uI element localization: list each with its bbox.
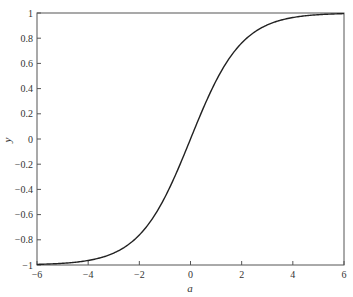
x-tick-label: −6 bbox=[32, 269, 43, 280]
x-axis-ticks: −6−4−20246 bbox=[32, 261, 347, 280]
y-tick-label: 0.4 bbox=[21, 83, 34, 94]
y-tick-label: 0 bbox=[28, 134, 33, 145]
x-tick-label: 4 bbox=[290, 269, 295, 280]
x-tick-label: 6 bbox=[342, 269, 347, 280]
x-axis-label: a bbox=[187, 282, 193, 294]
x-tick-label: 2 bbox=[239, 269, 244, 280]
y-tick-label: −0.2 bbox=[15, 159, 33, 170]
y-tick-label: 0.8 bbox=[21, 33, 34, 44]
y-tick-label: 0.6 bbox=[21, 58, 34, 69]
chart: −1−0.8−0.6−0.4−0.200.20.40.60.81 −6−4−20… bbox=[0, 0, 353, 297]
x-tick-label: −2 bbox=[134, 269, 145, 280]
y-tick-label: −0.4 bbox=[15, 184, 33, 195]
x-tick-label: −4 bbox=[83, 269, 94, 280]
data-line bbox=[37, 14, 344, 265]
x-tick-label: 0 bbox=[188, 269, 193, 280]
y-axis-label: y bbox=[1, 137, 13, 143]
y-tick-label: 0.2 bbox=[21, 108, 34, 119]
y-tick-label: −0.6 bbox=[15, 209, 33, 220]
y-tick-label: 1 bbox=[28, 8, 33, 19]
y-tick-label: −0.8 bbox=[15, 234, 33, 245]
